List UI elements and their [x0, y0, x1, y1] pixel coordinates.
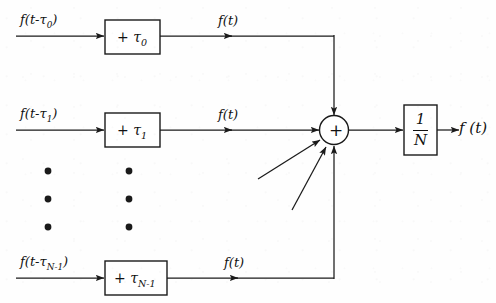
branch-1-input-label: f(t-τ1)	[20, 107, 57, 123]
output-label: f (t)	[459, 121, 487, 136]
branch-n-1-output-label: f(t)	[224, 256, 244, 269]
fraction-denominator: N	[405, 132, 436, 149]
branch-0-output-label: f(t)	[218, 14, 238, 27]
branch-1-block-label: + τ1	[117, 123, 147, 140]
branch-0-block-label: + τ0	[117, 30, 147, 47]
ellipsis-dot	[126, 224, 133, 231]
branch-0-input-label: f(t-τ0)	[20, 13, 57, 29]
ellipsis-dot	[45, 168, 52, 175]
ellipsis-dot	[126, 168, 133, 175]
ellipsis-dot	[126, 196, 133, 203]
fraction-numerator: 1	[405, 112, 436, 129]
one-over-n-fraction: 1 N	[405, 112, 436, 149]
branch-n-1-block-label: + τN-1	[114, 271, 156, 288]
implied-branch-diagonal-lower	[292, 147, 326, 210]
ellipsis-dot	[45, 196, 52, 203]
branch-1-output-label: f(t)	[218, 108, 238, 121]
summing-junction-plus: +	[329, 122, 343, 139]
ellipsis-dot	[45, 224, 52, 231]
implied-branch-diagonal-upper	[258, 140, 320, 179]
diagram-svg	[0, 0, 496, 303]
ellipsis-group	[45, 168, 133, 231]
diagram-canvas: f(t-τ0) + τ0 f(t) f(t-τ1) + τ1 f(t) f(t-…	[0, 0, 496, 303]
branch-n-1-input-label: f(t-τN-1)	[20, 255, 68, 271]
